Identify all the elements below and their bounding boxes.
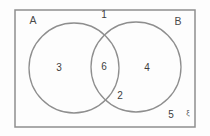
universal-set-symbol: ξ <box>186 109 189 117</box>
region-value-b-only: 4 <box>144 63 150 73</box>
region-value-outside-bottom-right: 5 <box>168 110 174 120</box>
region-value-b-lower: 2 <box>117 91 123 101</box>
region-value-a-only: 3 <box>56 63 62 73</box>
region-value-intersection: 6 <box>101 62 107 72</box>
venn-diagram: A B 1 3 6 4 2 5 ξ <box>0 0 210 136</box>
set-a-label: A <box>29 15 36 26</box>
region-value-outside-top: 1 <box>101 10 107 20</box>
set-b-label: B <box>174 16 181 27</box>
